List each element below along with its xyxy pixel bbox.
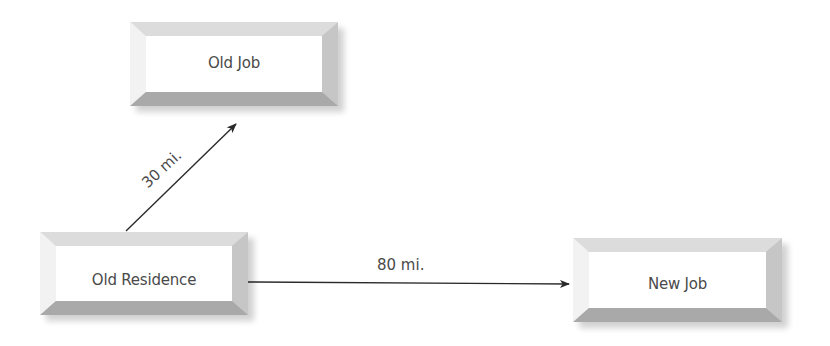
diagram-canvas: Old Job Old Residence New Job 30 mi. 80 …	[0, 0, 830, 346]
node-label: Old Job	[130, 54, 338, 72]
node-new-job[interactable]: New Job	[573, 238, 782, 322]
edge-label-80mi: 80 mi.	[377, 256, 424, 274]
arrow-old-residence-to-new-job	[246, 282, 569, 284]
node-old-residence[interactable]: Old Residence	[40, 232, 248, 315]
node-old-job[interactable]: Old Job	[130, 22, 338, 106]
node-label: New Job	[573, 275, 782, 293]
node-label: Old Residence	[40, 271, 248, 289]
